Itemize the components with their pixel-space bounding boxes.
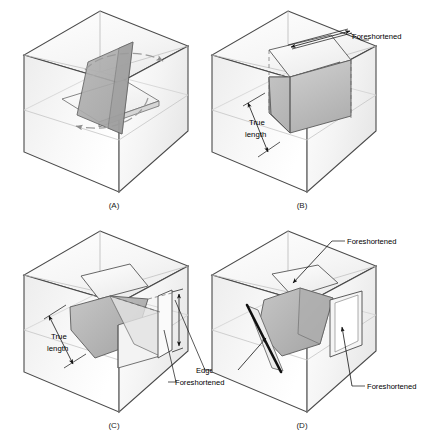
technical-figure: (A)	[0, 0, 439, 444]
panel-c-foreshortened-label: Foreshortened	[175, 378, 224, 387]
panel-b-caption: (B)	[297, 201, 308, 210]
panel-c-length-label: length	[47, 344, 68, 353]
panel-d-foreshortened-front-label: Foreshortened	[367, 382, 416, 391]
panel-c-caption: (C)	[108, 421, 119, 430]
panel-c-edge-view-face	[158, 290, 172, 358]
panel-a: (A)	[24, 11, 188, 210]
panel-b-foreshortened-label: Foreshortened	[352, 32, 401, 41]
panel-c: Edge view Foreshortened True length (C)	[24, 231, 232, 430]
panel-d-foreshortened-top-label: Foreshortened	[347, 237, 396, 246]
panel-b-length-label: length	[245, 130, 266, 139]
figure-root: (A)	[0, 0, 439, 444]
panel-b: Foreshortened True length (B)	[212, 11, 401, 210]
panel-c-true-label: True	[51, 332, 67, 341]
panel-b-true-label: True	[249, 118, 265, 127]
panel-d-caption: (D)	[296, 421, 307, 430]
panel-a-caption: (A)	[109, 201, 120, 210]
panel-d: Foreshortened Foreshortened (D)	[212, 231, 416, 430]
